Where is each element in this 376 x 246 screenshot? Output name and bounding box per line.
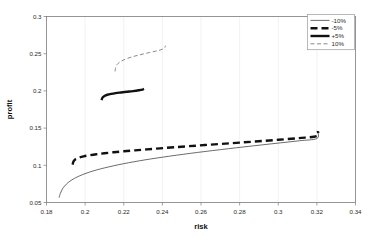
y-tick-label: 0.2 [33,87,42,94]
x-tick-label: 0.24 [156,208,169,215]
risk-profit-line-chart: 0.180.20.220.240.260.280.30.320.34 0.050… [0,0,376,246]
x-tick-label: 0.3 [274,208,283,215]
x-tick-label: 0.18 [40,208,53,215]
y-tick-label: 0.15 [29,124,42,131]
x-tick-label: 0.32 [311,208,324,215]
x-tick-label: 0.22 [118,208,131,215]
y-tick-label: 0.3 [33,13,42,20]
chart-container: 0.180.20.220.240.260.280.30.320.34 0.050… [0,0,376,246]
y-tick-label: 0.25 [29,50,42,57]
legend-label-minus10pct: -10% [332,17,347,24]
x-axis-tick-labels: 0.180.20.220.240.260.280.30.320.34 [40,208,362,215]
x-tick-label: 0.2 [81,208,90,215]
y-tick-label: 0.05 [29,199,42,206]
x-tick-label: 0.34 [349,208,362,215]
chart-legend: -10%-5%+5%10% [308,15,355,50]
legend-label-plus5pct: +5% [332,32,345,39]
x-tick-label: 0.26 [195,208,208,215]
y-axis-title: profit [5,99,14,119]
x-axis-title: risk [194,222,208,231]
legend-label-minus5pct: -5% [332,24,344,31]
legend-label-10pct: 10% [332,40,345,47]
x-tick-label: 0.28 [234,208,247,215]
y-tick-label: 0.1 [33,162,42,169]
